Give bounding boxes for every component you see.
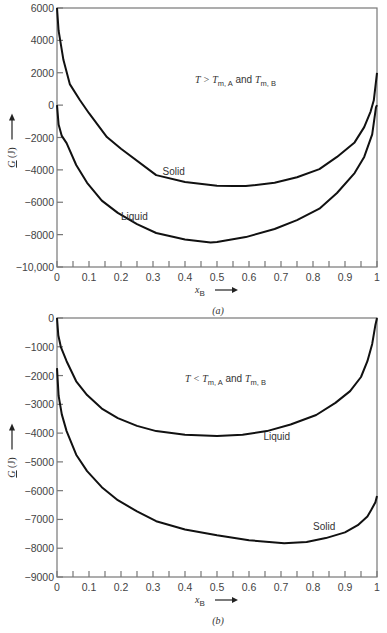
curve-liquid: [57, 318, 377, 436]
x-tick-label: 0.7: [274, 581, 289, 593]
y-tick-label: −2000: [25, 132, 55, 144]
x-tick-label: 0.4: [178, 271, 193, 283]
x-tick-label: 0.1: [82, 271, 97, 283]
y-tick-label: 4000: [31, 34, 55, 46]
x-axis-label: xB: [194, 594, 205, 608]
x-tick-label: 0: [54, 581, 60, 593]
chart-b-below-melting: 0−1000−2000−3000−4000−5000−6000−7000−800…: [6, 312, 380, 627]
x-tick-label: 0.1: [82, 581, 97, 593]
y-tick-label: −4000: [25, 164, 55, 176]
plot-frame: [57, 8, 377, 267]
y-arrowhead-icon: [9, 424, 15, 431]
y-tick-label: −3000: [25, 398, 55, 410]
y-tick-label: −6000: [25, 485, 55, 497]
y-arrowhead-icon: [9, 114, 15, 121]
gibbs-energy-charts: 6000400020000−2000−4000−6000−8000−10,000…: [0, 0, 387, 633]
y-tick-label: 2000: [31, 67, 55, 79]
y-tick-label: −8000: [25, 229, 55, 241]
x-tick-label: 0.2: [114, 271, 129, 283]
y-tick-label: −1000: [25, 341, 55, 353]
y-axis-label: G (J): [6, 457, 18, 477]
series-label-liquid: Liquid: [121, 211, 148, 222]
y-tick-label: 0: [48, 312, 54, 324]
condition-annotation: T > Tm, A and Tm, B: [195, 74, 276, 88]
x-tick-label: 0.6: [242, 271, 257, 283]
chart-caption: (a): [212, 305, 224, 317]
x-tick-label: 0.5: [210, 581, 225, 593]
y-tick-label: −2000: [25, 370, 55, 382]
curve-solid: [57, 8, 377, 186]
series-label-solid: Solid: [313, 521, 335, 532]
y-tick-label: −5000: [25, 456, 55, 468]
condition-annotation: T < Tm, A and Tm, B: [185, 373, 266, 387]
curve-solid: [57, 368, 377, 543]
x-tick-label: 0.7: [274, 271, 289, 283]
x-tick-label: 1: [374, 271, 380, 283]
x-tick-label: 0.6: [242, 581, 257, 593]
y-tick-label: −7000: [25, 513, 55, 525]
x-arrowhead-icon: [232, 287, 238, 293]
x-axis-label: xB: [194, 284, 205, 298]
x-tick-label: 0.8: [306, 581, 321, 593]
y-tick-label: 6000: [31, 2, 55, 14]
x-tick-label: 0.2: [114, 581, 129, 593]
chart-caption: (b): [212, 615, 224, 627]
x-tick-label: 0.9: [338, 271, 353, 283]
y-tick-label: 0: [48, 99, 54, 111]
y-tick-label: −9000: [25, 571, 55, 583]
chart-a-above-melting: 6000400020000−2000−4000−6000−8000−10,000…: [6, 2, 380, 317]
x-tick-label: 0.3: [146, 271, 161, 283]
y-tick-label: −4000: [25, 427, 55, 439]
y-tick-label: −6000: [25, 196, 55, 208]
x-tick-label: 0.9: [338, 581, 353, 593]
x-tick-label: 0.8: [306, 271, 321, 283]
y-axis-label: G (J): [6, 147, 18, 167]
x-tick-label: 0.4: [178, 581, 193, 593]
x-tick-label: 1: [374, 581, 380, 593]
series-label-solid: Solid: [163, 166, 185, 177]
series-label-liquid: Liquid: [263, 431, 290, 442]
x-tick-label: 0: [54, 271, 60, 283]
x-arrowhead-icon: [232, 597, 238, 603]
x-tick-label: 0.5: [210, 271, 225, 283]
y-tick-label: −8000: [25, 542, 55, 554]
curve-liquid: [57, 105, 377, 242]
x-tick-label: 0.3: [146, 581, 161, 593]
y-tick-label: −10,000: [16, 261, 54, 273]
